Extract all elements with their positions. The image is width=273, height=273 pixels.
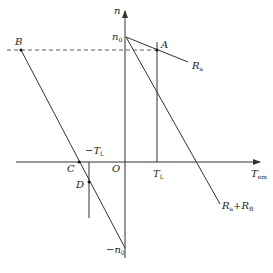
neg-n0-sub: 0 <box>121 249 125 256</box>
tem-sub: em <box>258 173 267 180</box>
neg-n0-main: −n <box>106 244 121 255</box>
torque-axis-label: Tem <box>251 169 267 180</box>
curve-ra-rb-label: Ra+RB <box>222 201 253 212</box>
neg-tl-main: −T <box>85 145 100 156</box>
neg-n0-label: −n0 <box>106 245 125 256</box>
ra-sub: a <box>200 65 204 72</box>
rarb-main1: R <box>222 200 230 211</box>
speed-axis-label: n <box>114 6 120 16</box>
rarb-main2: R <box>242 200 250 211</box>
point-a-dot <box>156 49 159 52</box>
neg-tl-label: −TL <box>85 146 104 157</box>
rarb-plus: + <box>233 200 241 211</box>
diagram-lines <box>0 0 273 273</box>
ra-main: R <box>192 60 200 71</box>
point-b-dot <box>20 49 23 52</box>
point-c-dot <box>78 161 81 164</box>
neg-tl-sub: L <box>100 150 104 157</box>
rarb-sub2: B <box>249 205 253 212</box>
point-a-label: A <box>161 40 168 50</box>
curve-ra-label: Ra <box>192 61 203 72</box>
curve-ra-rb <box>126 37 220 204</box>
point-c-label: C <box>67 164 75 174</box>
tl-main: T <box>153 168 160 179</box>
diagram-canvas: n n0 A Ra B −TL C O TL Tem D Ra+RB −n0 <box>0 0 273 273</box>
n0-label: n0 <box>112 32 122 43</box>
n0-sub: 0 <box>118 36 122 43</box>
point-d-label: D <box>76 180 84 190</box>
tl-sub: L <box>160 173 164 180</box>
tl-label: TL <box>153 169 164 180</box>
tem-main: T <box>251 168 258 179</box>
point-d-dot <box>88 181 91 184</box>
curve-reverse <box>21 50 125 248</box>
point-b-label: B <box>15 37 22 47</box>
origin-label: O <box>112 164 120 174</box>
